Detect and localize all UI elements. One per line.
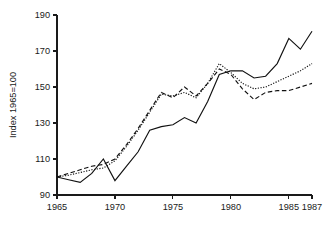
y-tick-label: 170 <box>35 46 50 56</box>
x-tick-label: 1965 <box>47 202 67 212</box>
chart-container: 90110130150170190 1965197019751980198519… <box>0 0 335 226</box>
x-tick-label: 1980 <box>221 202 241 212</box>
axis-group <box>57 15 312 195</box>
x-tick-label: 1985 <box>279 202 299 212</box>
y-tick-label: 130 <box>35 118 50 128</box>
y-axis-ticks: 90110130150170190 <box>35 10 57 200</box>
y-tick-label: 190 <box>35 10 50 20</box>
x-tick-label: 1970 <box>105 202 125 212</box>
data-series-group <box>57 31 312 182</box>
y-tick-label: 90 <box>40 190 50 200</box>
x-tick-label: 1975 <box>163 202 183 212</box>
series-dashed <box>57 69 312 177</box>
series-solid <box>57 31 312 182</box>
x-axis-ticks: 196519701975198019851987 <box>47 195 322 212</box>
x-tick-label: 1987 <box>302 202 322 212</box>
y-tick-label: 150 <box>35 82 50 92</box>
series-dotted <box>57 64 312 177</box>
line-chart: 90110130150170190 1965197019751980198519… <box>0 0 335 226</box>
y-axis-title: Index 1965=100 <box>8 72 18 138</box>
y-tick-label: 110 <box>35 154 50 164</box>
